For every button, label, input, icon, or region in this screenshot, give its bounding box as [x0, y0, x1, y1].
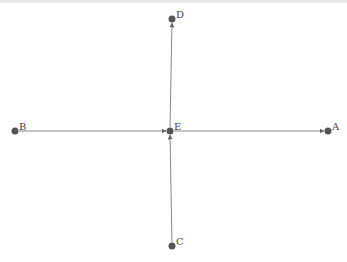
node-label-e: E	[174, 121, 181, 132]
node-a[interactable]	[325, 128, 332, 135]
node-c[interactable]	[169, 243, 176, 250]
edge-c-e	[170, 135, 172, 242]
node-label-a: A	[331, 121, 340, 132]
node-label-b: B	[19, 121, 26, 132]
edge-e-d	[170, 23, 172, 127]
node-d[interactable]	[169, 16, 176, 23]
node-e[interactable]	[167, 128, 174, 135]
node-b[interactable]	[12, 128, 19, 135]
node-label-c: C	[176, 236, 184, 247]
node-label-d: D	[176, 9, 184, 20]
graph-canvas: ABCDE	[0, 0, 347, 262]
